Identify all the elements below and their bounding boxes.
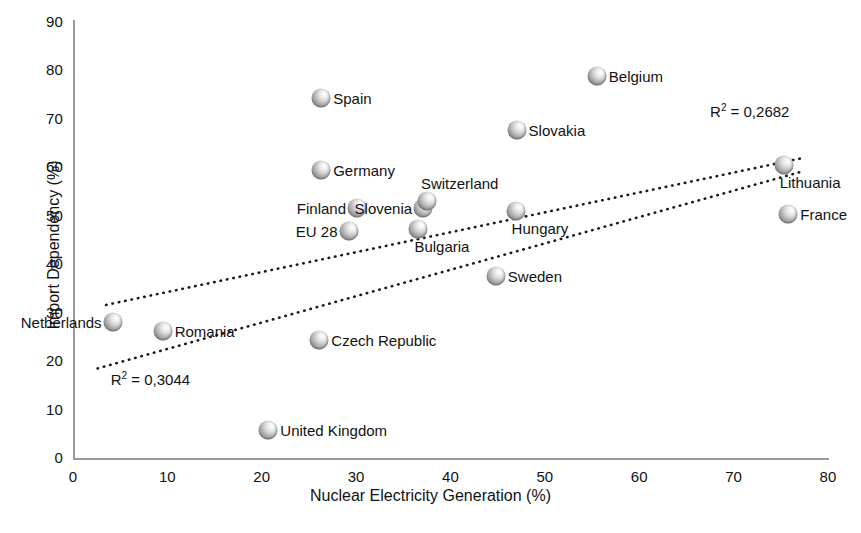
x-tick-50: 50 [524,468,566,485]
x-axis-title: Nuclear Electricity Generation (%) [0,487,861,505]
data-point-marker[interactable] [587,67,606,86]
data-point-marker[interactable] [310,331,329,350]
data-point-label: Switzerland [421,175,499,192]
x-tick-40: 40 [430,468,472,485]
x-axis-line [73,458,829,460]
data-point-marker[interactable] [417,192,436,211]
y-axis-line [73,20,75,460]
data-point-marker[interactable] [486,267,505,286]
data-point-marker[interactable] [409,219,428,238]
x-tick-60: 60 [618,468,660,485]
x-tick-20: 20 [241,468,283,485]
data-point-label: Czech Republic [331,332,436,349]
y-tick-10: 10 [21,401,63,418]
data-point-label: Belgium [609,68,663,85]
scatter-chart: 0102030405060708090 01020304050607080 Ne… [0,0,861,533]
data-point-label: EU 28 [296,223,338,240]
x-tick-80: 80 [807,468,849,485]
data-point-label: Slovakia [529,121,586,138]
data-point-label: Sweden [508,268,562,285]
x-tick-10: 10 [146,468,188,485]
data-point-marker[interactable] [507,120,526,139]
data-point-label: Hungary [512,219,569,236]
r2-upper: R2 = 0,2682 [710,102,789,120]
data-point-marker[interactable] [506,201,525,220]
data-point-marker[interactable] [779,205,798,224]
y-tick-0: 0 [21,449,63,466]
data-point-label: Lithuania [780,173,841,190]
data-point-marker[interactable] [339,222,358,241]
data-point-label: France [800,206,847,223]
trendlines-layer [0,0,861,533]
y-tick-90: 90 [21,13,63,30]
data-point-marker[interactable] [103,312,122,331]
data-point-label: Germany [333,162,395,179]
data-point-label: Finland [297,200,346,217]
x-tick-0: 0 [52,468,94,485]
data-point-marker[interactable] [259,421,278,440]
data-point-marker[interactable] [312,89,331,108]
data-point-marker[interactable] [153,321,172,340]
data-point-label: Spain [333,90,371,107]
data-point-marker[interactable] [312,161,331,180]
data-point-marker[interactable] [774,155,793,174]
data-point-label: Romania [175,322,235,339]
x-tick-70: 70 [713,468,755,485]
y-axis-title: Import Dependency (%) [45,95,63,395]
data-point-label: Slovenia [355,199,413,216]
data-point-label: Bulgaria [414,237,469,254]
data-point-label: United Kingdom [280,422,387,439]
x-tick-30: 30 [335,468,377,485]
y-tick-80: 80 [21,61,63,78]
r2-lower: R2 = 0,3044 [111,370,190,388]
